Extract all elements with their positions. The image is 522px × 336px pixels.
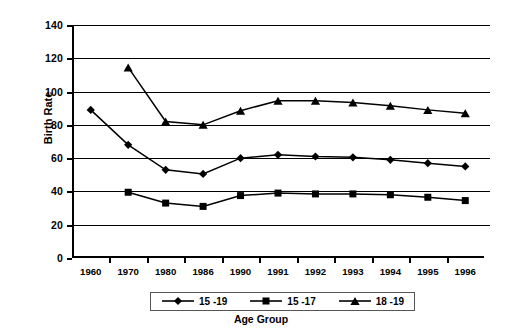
series-line	[128, 67, 465, 124]
birth-rate-line-chart: Birth Rate 020406080100120140 1960197019…	[0, 0, 522, 336]
y-tick-label-80: 80	[51, 119, 63, 131]
legend-item-15-17[interactable]: 15 -17	[249, 295, 315, 307]
square-marker-icon	[237, 192, 244, 199]
y-tick-label-40: 40	[51, 185, 63, 197]
x-tick-label-1960: 1960	[80, 266, 101, 277]
diamond-marker-icon	[162, 166, 170, 174]
square-marker-icon	[249, 295, 283, 307]
x-axis-title: Age Group	[0, 313, 522, 325]
diamond-marker-icon	[311, 152, 319, 160]
y-tick-label-120: 120	[45, 52, 63, 64]
diamond-marker-icon	[236, 154, 244, 162]
x-tick-label-1991: 1991	[267, 266, 288, 277]
y-tick-label-100: 100	[45, 86, 63, 98]
x-tick-mark-7	[334, 258, 336, 263]
square-marker-icon	[349, 190, 356, 197]
square-marker-icon	[312, 190, 319, 197]
y-tick-label-0: 0	[57, 252, 63, 264]
series-15-17	[125, 189, 469, 210]
x-tick-mark-5	[259, 258, 261, 263]
diamond-marker-icon	[461, 162, 469, 170]
triangle-marker-icon	[338, 295, 372, 307]
y-tick-label-140: 140	[45, 19, 63, 31]
square-marker-icon	[387, 191, 394, 198]
legend-label: 18 -19	[376, 296, 404, 307]
legend-label: 15 -17	[287, 296, 315, 307]
chart-legend: 15 -1915 -1718 -19	[150, 292, 415, 311]
square-marker-icon	[125, 189, 132, 196]
diamond-marker-icon	[274, 151, 282, 159]
triangle-marker-icon	[236, 107, 245, 115]
x-tick-mark-10	[447, 258, 449, 263]
x-tick-label-1986: 1986	[192, 266, 213, 277]
series-layer	[72, 25, 484, 258]
x-tick-mark-1	[109, 258, 111, 263]
legend-item-18-19[interactable]: 18 -19	[338, 295, 404, 307]
x-tick-mark-2	[147, 258, 149, 263]
series-line	[128, 192, 465, 206]
diamond-marker-icon	[161, 295, 195, 307]
legend-item-15-19[interactable]: 15 -19	[161, 295, 227, 307]
diamond-marker-icon	[386, 156, 394, 164]
diamond-marker-icon	[199, 170, 207, 178]
x-tick-mark-6	[297, 258, 299, 263]
x-tick-label-1970: 1970	[118, 266, 139, 277]
series-15-19	[87, 106, 470, 178]
x-tick-label-1993: 1993	[342, 266, 363, 277]
x-tick-label-1994: 1994	[380, 266, 401, 277]
y-tick-label-60: 60	[51, 152, 63, 164]
x-tick-label-1992: 1992	[305, 266, 326, 277]
square-marker-icon	[275, 190, 282, 197]
x-tick-mark-8	[372, 258, 374, 263]
x-tick-label-1995: 1995	[417, 266, 438, 277]
x-tick-label-1980: 1980	[155, 266, 176, 277]
square-marker-icon	[424, 194, 431, 201]
diamond-marker-icon	[349, 153, 357, 161]
x-tick-mark-4	[222, 258, 224, 263]
x-tick-mark-3	[184, 258, 186, 263]
diamond-marker-icon	[424, 159, 432, 167]
x-tick-label-1990: 1990	[230, 266, 251, 277]
x-axis: 1960197019801986199019911992199319941995…	[72, 258, 484, 284]
x-tick-label-1996: 1996	[455, 266, 476, 277]
square-marker-icon	[200, 203, 207, 210]
y-tick-label-20: 20	[51, 219, 63, 231]
square-marker-icon	[462, 197, 469, 204]
triangle-marker-icon	[124, 63, 133, 71]
square-marker-icon	[162, 200, 169, 207]
legend-label: 15 -19	[199, 296, 227, 307]
x-tick-mark-9	[409, 258, 411, 263]
series-line	[91, 110, 466, 174]
series-18-19	[124, 63, 470, 128]
